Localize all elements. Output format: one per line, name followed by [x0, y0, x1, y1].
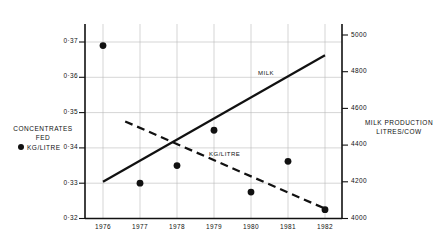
right-axis-title-line2: LITRES/COW	[358, 127, 440, 136]
legend-marker-dot-icon	[18, 144, 24, 150]
left-axis-title-line2: FED	[5, 133, 81, 142]
x-axis-tick-1978: 1978	[157, 223, 197, 230]
horizontal-gridlines	[85, 42, 342, 183]
left-axis	[79, 24, 85, 219]
right-axis	[342, 24, 348, 219]
legend-marker-label: KG/LITRE	[27, 143, 87, 152]
right-axis-tick-2: 4400	[351, 140, 383, 147]
right-axis-title-line1: MILK PRODUCTION	[358, 118, 440, 127]
annotation-milk: MILK	[258, 70, 274, 76]
left-axis-tick-0: 0·32	[46, 214, 78, 221]
series-kg-litre-dashed-line	[125, 121, 325, 208]
vertical-gridlines	[103, 24, 325, 219]
right-axis-tick-3: 4600	[351, 104, 383, 111]
left-axis-title-line1: CONCENTRATES	[5, 124, 81, 133]
chart-figure: 0·32 0·33 0·34 0·35 0·36 0·37 4000 4200 …	[0, 0, 441, 243]
left-axis-tick-4: 0·36	[46, 72, 78, 79]
x-axis-tick-1979: 1979	[194, 223, 234, 230]
right-axis-tick-5: 5000	[351, 31, 383, 38]
left-axis-tick-1: 0·33	[46, 179, 78, 186]
x-axis-tick-1981: 1981	[268, 223, 308, 230]
right-axis-tick-1: 4200	[351, 177, 383, 184]
x-axis-tick-1977: 1977	[120, 223, 160, 230]
x-axis-tick-1976: 1976	[83, 223, 123, 230]
x-axis-tick-1980: 1980	[231, 223, 271, 230]
annotation-kg-litre: KG/LITRE	[209, 151, 240, 157]
right-axis-tick-0: 4000	[351, 214, 383, 221]
left-axis-tick-3: 0·35	[46, 108, 78, 115]
left-axis-tick-5: 0·37	[46, 37, 78, 44]
right-axis-tick-4: 4800	[351, 67, 383, 74]
x-axis-tick-1982: 1982	[305, 223, 345, 230]
